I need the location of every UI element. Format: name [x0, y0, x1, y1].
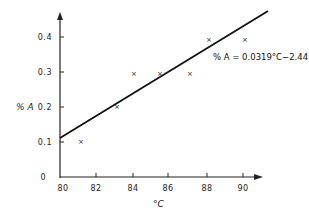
y-tick-label: 0 [40, 173, 46, 182]
x-tick-label: 90 [237, 184, 248, 193]
x-tick-labels: 80 82 84 86 88 90 [57, 184, 248, 193]
x-tick-label: 80 [57, 184, 68, 193]
data-point-marker-icon: × [206, 36, 212, 44]
data-point-marker-icon: × [187, 70, 193, 78]
x-tick-label: 88 [201, 184, 212, 193]
x-axis-label: °C [153, 199, 165, 209]
chart: 0 0.1 0.2 0.3 0.4 80 82 84 86 88 90 % A … [0, 0, 309, 219]
y-axis-label: % A [16, 102, 34, 112]
x-tick-label: 82 [90, 184, 101, 193]
x-axis-arrow-icon [254, 174, 263, 180]
data-point-marker-icon: × [78, 138, 84, 146]
equation-annotation: % A = 0.0319°C−2.44 [213, 52, 308, 62]
y-tick-label: 0.1 [38, 138, 52, 147]
x-tick-label: 86 [162, 184, 173, 193]
data-point-marker-icon: × [131, 70, 137, 78]
y-tick-label: 0.2 [38, 103, 52, 112]
y-tick-label: 0.4 [38, 33, 52, 42]
y-tick-label: 0.3 [38, 68, 52, 77]
y-axis-arrow-icon [57, 12, 63, 20]
data-point-marker-icon: × [114, 103, 120, 111]
data-point-marker-icon: × [242, 36, 248, 44]
regression-line [60, 11, 268, 138]
x-tick-label: 84 [127, 184, 138, 193]
data-point-marker-icon: × [157, 70, 163, 78]
y-tick-labels: 0 0.1 0.2 0.3 0.4 [38, 33, 52, 182]
